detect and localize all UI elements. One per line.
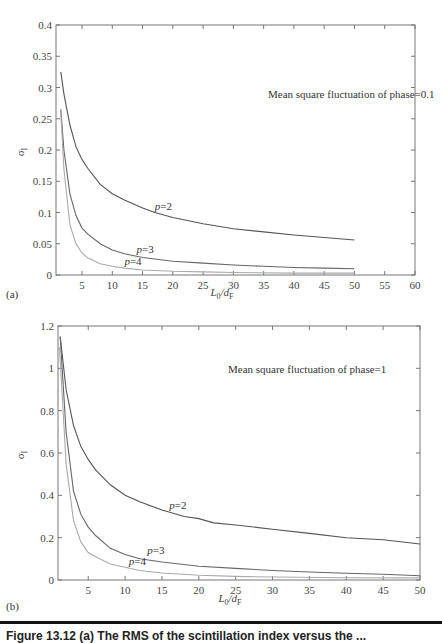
x-tick-label: 35 xyxy=(258,279,270,291)
y-tick-label: 0.25 xyxy=(33,113,53,125)
y-tick-label: 0 xyxy=(47,269,53,281)
y-tick-label: 0.4 xyxy=(38,19,52,31)
x-tick-label: 30 xyxy=(228,279,240,291)
x-tick-label: 40 xyxy=(341,584,353,596)
y-tick-label: 0.8 xyxy=(40,405,54,417)
x-tick-label: 50 xyxy=(349,279,361,291)
chart-panel-a: 5101520253035404550556000.050.10.150.20.… xyxy=(6,19,435,301)
curve-label: p=3 xyxy=(146,544,165,556)
x-tick-label: 40 xyxy=(288,279,300,291)
panel-label: (a) xyxy=(6,288,19,301)
phase-annotation: Mean square fluctuation of phase=0.1 xyxy=(268,88,435,100)
figure-caption: Figure 13.12 (a) The RMS of the scintill… xyxy=(6,629,442,643)
x-tick-label: 10 xyxy=(120,584,132,596)
x-tick-label: 5 xyxy=(79,279,85,291)
y-tick-label: 1.2 xyxy=(40,320,54,332)
y-tick-label: 0 xyxy=(49,574,55,586)
panel-label: (b) xyxy=(6,600,19,613)
x-tick-label: 55 xyxy=(379,279,391,291)
x-tick-label: 5 xyxy=(85,584,91,596)
plot-frame xyxy=(56,25,415,275)
y-tick-label: 0.6 xyxy=(40,447,54,459)
x-tick-label: 35 xyxy=(304,584,316,596)
x-tick-label: 30 xyxy=(267,584,279,596)
x-tick-label: 10 xyxy=(107,279,119,291)
curve-label: p=4 xyxy=(128,555,147,567)
series-line-p3 xyxy=(61,109,355,268)
y-tick-label: 0.35 xyxy=(33,50,53,62)
y-tick-label: 1 xyxy=(49,362,55,374)
x-tick-label: 15 xyxy=(137,279,149,291)
x-tick-label: 60 xyxy=(410,279,422,291)
series-line-p4 xyxy=(61,113,355,274)
y-tick-label: 0.3 xyxy=(38,82,52,94)
x-tick-label: 20 xyxy=(193,584,205,596)
x-tick-label: 25 xyxy=(198,279,210,291)
curve-label: p=2 xyxy=(168,499,186,511)
phase-annotation: Mean square fluctuation of phase=1 xyxy=(228,363,386,375)
chart-panel-b: 510152025303540455000.20.40.60.811.2p=2p… xyxy=(6,320,426,613)
y-axis-label: σI xyxy=(14,147,29,156)
x-tick-label: 45 xyxy=(319,279,331,291)
x-tick-label: 15 xyxy=(156,584,168,596)
x-tick-label: 20 xyxy=(167,279,179,291)
y-tick-label: 0.05 xyxy=(33,238,53,250)
curve-label: p=4 xyxy=(123,255,142,267)
y-axis-label: σI xyxy=(14,450,29,459)
y-tick-label: 0.1 xyxy=(38,207,52,219)
curve-label: p=2 xyxy=(154,200,172,212)
curve-label: p=3 xyxy=(136,243,155,255)
x-tick-label: 45 xyxy=(378,584,390,596)
y-tick-label: 0.2 xyxy=(40,532,54,544)
y-tick-label: 0.2 xyxy=(38,144,52,156)
x-tick-label: 50 xyxy=(415,584,427,596)
series-line-p4 xyxy=(60,347,421,578)
y-tick-label: 0.4 xyxy=(40,489,54,501)
caption-divider xyxy=(0,621,442,624)
y-tick-label: 0.15 xyxy=(33,175,53,187)
